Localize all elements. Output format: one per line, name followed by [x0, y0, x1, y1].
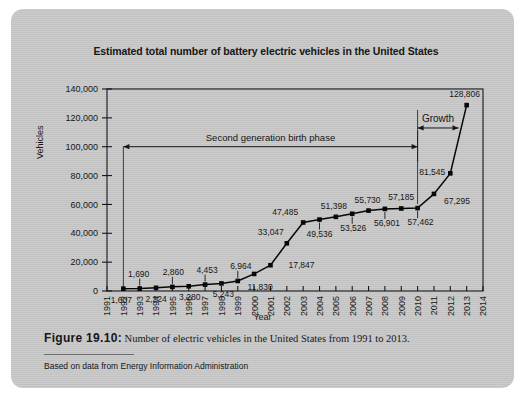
x-tick-label: 2012	[446, 296, 456, 316]
data-point-label: 57,462	[408, 217, 434, 227]
data-point-label: 1,690	[128, 269, 150, 279]
data-point-label: 56,901	[374, 218, 400, 228]
x-tick-label: 2006	[348, 296, 358, 316]
x-tick-label: 2009	[397, 296, 407, 316]
annotation-arrow: Second generation birth phase	[123, 131, 417, 286]
data-point-marker	[448, 171, 453, 176]
arrow-head-right	[452, 125, 458, 130]
data-point-label: 55,730	[355, 195, 381, 205]
arrow-head-left	[123, 144, 129, 149]
x-tick-label: 2014	[478, 296, 488, 316]
arrow-head-right	[412, 144, 418, 149]
data-point-marker	[350, 211, 355, 216]
x-tick-label: 2013	[462, 296, 472, 316]
x-tick-label: 1997	[200, 296, 210, 316]
data-point-label: 6,964	[230, 261, 252, 271]
data-point-label: 5,243	[213, 289, 235, 299]
data-point-marker	[399, 206, 404, 211]
data-point-marker	[301, 220, 306, 225]
data-point-marker	[137, 286, 142, 291]
figure-area: Estimated total number of battery electr…	[11, 9, 514, 388]
data-point-label: 49,536	[307, 229, 333, 239]
figure-number: Figure 19.10:	[44, 331, 122, 345]
data-point-marker	[121, 286, 126, 291]
annotation-label: Second generation birth phase	[206, 132, 335, 143]
figure-caption-text: Number of electric vehicles in the Unite…	[125, 333, 410, 344]
x-tick-label: 2004	[315, 296, 325, 316]
data-point-marker	[383, 207, 388, 212]
data-point-marker	[366, 208, 371, 213]
data-point-label: 81,545	[419, 167, 445, 177]
x-tick-label: 2007	[364, 296, 374, 316]
y-tick-label: 100,000	[65, 142, 98, 152]
data-point-label: 47,485	[272, 207, 298, 217]
data-point-label: 53,526	[340, 223, 366, 233]
x-tick-label: 1999	[233, 296, 243, 316]
data-point-label: 33,047	[258, 227, 284, 237]
data-point-marker	[235, 279, 240, 284]
x-tick-label: 2008	[380, 296, 390, 316]
annotation-growth: Growth	[418, 110, 459, 162]
x-tick-label: 2001	[266, 296, 276, 316]
x-tick-label: 1995	[168, 296, 178, 316]
data-point-marker	[219, 281, 224, 286]
line-chart-svg: 020,00040,00060,00080,000100,000120,0001…	[11, 9, 514, 329]
data-point-marker	[334, 215, 339, 220]
annotation-label: Growth	[422, 113, 454, 124]
data-point-label: 128,806	[449, 89, 480, 99]
arrow-head-left	[418, 125, 424, 130]
data-point-marker	[252, 272, 257, 277]
caption-divider	[44, 354, 134, 355]
x-tick-label: 2002	[282, 296, 292, 316]
y-tick-label: 120,000	[65, 113, 98, 123]
plot-area: Vehicles Year 020,00040,00060,00080,0001…	[11, 9, 514, 329]
y-tick-label: 0	[93, 286, 98, 296]
data-point-marker	[268, 263, 273, 268]
y-tick-label: 40,000	[70, 228, 98, 238]
data-point-label: 4,453	[196, 265, 218, 275]
figure-panel: Estimated total number of battery electr…	[11, 9, 514, 388]
y-tick-label: 60,000	[70, 200, 98, 210]
data-point-label: 51,398	[321, 201, 347, 211]
x-tick-label: 2000	[250, 296, 260, 316]
data-point-label: 57,185	[388, 192, 414, 202]
data-point-marker	[317, 217, 322, 222]
y-tick-label: 20,000	[70, 257, 98, 267]
data-point-label: 2,860	[163, 267, 185, 277]
data-point-label: 3,280	[179, 292, 201, 302]
x-tick-label: 1993	[135, 296, 145, 316]
data-point-marker	[170, 285, 175, 290]
data-point-label: 1,607	[111, 295, 133, 305]
data-point-label: 67,295	[444, 196, 470, 206]
data-point-label: 11,830	[247, 282, 273, 292]
data-point-marker	[203, 282, 208, 287]
figure-caption: Figure 19.10: Number of electric vehicle…	[44, 331, 484, 346]
data-point-label: 17,847	[288, 260, 314, 270]
data-point-marker	[285, 241, 290, 246]
x-tick-label: 2005	[331, 296, 341, 316]
x-tick-label: 2010	[413, 296, 423, 316]
y-tick-label: 140,000	[65, 84, 98, 94]
data-point-marker	[432, 192, 437, 197]
x-tick-label: 2003	[299, 296, 309, 316]
data-point-marker	[186, 284, 191, 289]
x-tick-label: 2011	[429, 296, 439, 315]
data-point-marker	[154, 285, 159, 290]
data-point-marker	[415, 206, 420, 211]
y-tick-label: 80,000	[70, 171, 98, 181]
data-point-label: 2,224	[145, 294, 167, 304]
figure-source: Based on data from Energy Information Ad…	[44, 361, 248, 371]
data-point-marker	[464, 103, 469, 108]
